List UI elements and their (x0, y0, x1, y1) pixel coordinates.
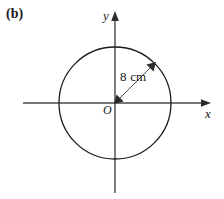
radius-dimension-label: 8 cm (120, 70, 146, 83)
circle-diagram-graphic (0, 0, 224, 199)
x-axis-label: x (205, 107, 211, 120)
part-label: (b) (6, 7, 23, 21)
y-axis-arrowhead-icon (111, 11, 119, 21)
y-axis-label: y (103, 9, 109, 22)
figure-panel: (b) y x O 8 cm (0, 0, 224, 199)
origin-label: O (103, 104, 112, 116)
